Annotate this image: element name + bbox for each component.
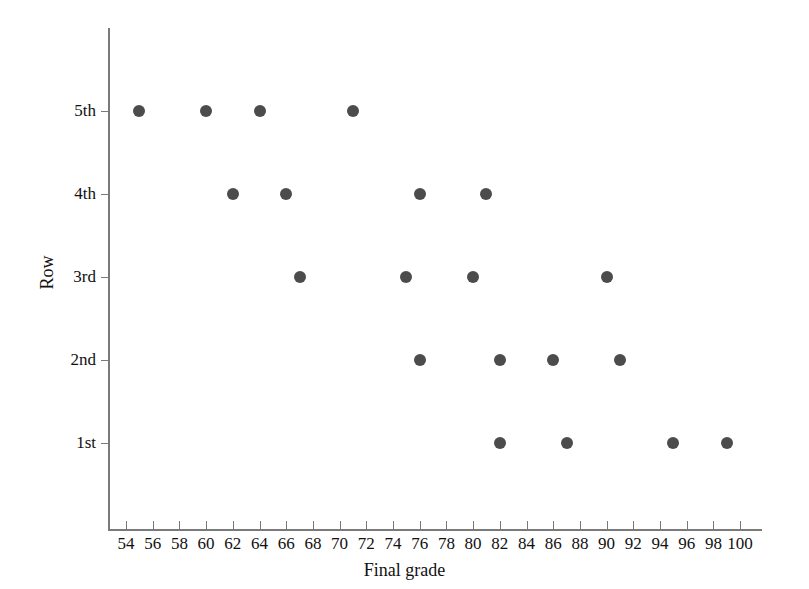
y-axis-line — [108, 28, 110, 530]
data-point — [414, 354, 426, 366]
data-point — [721, 437, 733, 449]
x-tick-100 — [740, 521, 741, 530]
x-tick-94 — [660, 521, 661, 530]
x-tick-label-92: 92 — [625, 534, 642, 553]
data-point — [200, 105, 212, 117]
x-tick-54 — [126, 521, 127, 530]
data-point — [494, 354, 506, 366]
x-tick-56 — [153, 521, 154, 530]
x-tick-label-56: 56 — [144, 534, 161, 553]
x-tick-label-90: 90 — [598, 534, 615, 553]
x-tick-74 — [393, 521, 394, 530]
x-tick-label-74: 74 — [385, 534, 402, 553]
x-tick-label-64: 64 — [251, 534, 268, 553]
x-tick-96 — [687, 521, 688, 530]
data-point — [467, 271, 479, 283]
x-tick-label-88: 88 — [571, 534, 588, 553]
data-point — [133, 105, 145, 117]
y-tick-label-2nd: 2nd — [34, 351, 96, 368]
y-tick-label-text: 1st — [36, 434, 96, 451]
data-point — [667, 437, 679, 449]
data-point — [414, 188, 426, 200]
x-tick-label-76: 76 — [411, 534, 428, 553]
data-point — [547, 354, 559, 366]
chart-canvas: 1st2nd3rd4th5th 545658606264666870727476… — [0, 0, 809, 589]
y-tick-label-5th: 5th — [34, 102, 96, 119]
x-tick-label-58: 58 — [171, 534, 188, 553]
y-tick-3rd — [101, 277, 110, 278]
x-tick-label-68: 68 — [304, 534, 321, 553]
x-tick-label-96: 96 — [678, 534, 695, 553]
data-point — [561, 437, 573, 449]
x-tick-82 — [500, 521, 501, 530]
x-tick-label-100: 100 — [727, 534, 753, 553]
x-tick-label-98: 98 — [705, 534, 722, 553]
x-tick-92 — [633, 521, 634, 530]
y-tick-2nd — [101, 360, 110, 361]
y-tick-label-text: 5th — [36, 102, 96, 119]
data-point — [494, 437, 506, 449]
x-tick-78 — [446, 521, 447, 530]
x-tick-label-62: 62 — [224, 534, 241, 553]
y-tick-label-1st: 1st — [34, 434, 96, 451]
y-tick-label-text: 2nd — [36, 351, 96, 368]
x-tick-label-54: 54 — [118, 534, 135, 553]
x-tick-label-84: 84 — [518, 534, 535, 553]
x-tick-62 — [233, 521, 234, 530]
x-tick-98 — [713, 521, 714, 530]
y-tick-label-text: 4th — [36, 185, 96, 202]
x-tick-80 — [473, 521, 474, 530]
x-tick-64 — [260, 521, 261, 530]
data-point — [280, 188, 292, 200]
x-tick-label-78: 78 — [438, 534, 455, 553]
data-point — [614, 354, 626, 366]
data-point — [347, 105, 359, 117]
x-tick-86 — [553, 521, 554, 530]
data-point — [254, 105, 266, 117]
x-tick-76 — [420, 521, 421, 530]
y-tick-4th — [101, 194, 110, 195]
x-tick-68 — [313, 521, 314, 530]
x-tick-60 — [206, 521, 207, 530]
x-tick-label-80: 80 — [465, 534, 482, 553]
x-tick-70 — [340, 521, 341, 530]
data-point — [400, 271, 412, 283]
y-tick-label-4th: 4th — [34, 185, 96, 202]
x-tick-label-70: 70 — [331, 534, 348, 553]
data-point — [601, 271, 613, 283]
x-tick-72 — [366, 521, 367, 530]
x-tick-66 — [286, 521, 287, 530]
data-point — [227, 188, 239, 200]
x-axis-title: Final grade — [0, 560, 809, 581]
x-tick-label-60: 60 — [198, 534, 215, 553]
x-tick-88 — [580, 521, 581, 530]
data-point — [480, 188, 492, 200]
x-tick-58 — [179, 521, 180, 530]
x-tick-label-72: 72 — [358, 534, 375, 553]
x-tick-label-82: 82 — [491, 534, 508, 553]
x-tick-90 — [607, 521, 608, 530]
y-axis-title: Row — [37, 243, 58, 303]
x-tick-label-66: 66 — [278, 534, 295, 553]
y-tick-1st — [101, 443, 110, 444]
x-tick-label-94: 94 — [652, 534, 669, 553]
x-tick-84 — [527, 521, 528, 530]
y-tick-5th — [101, 111, 110, 112]
data-point — [294, 271, 306, 283]
x-tick-label-86: 86 — [545, 534, 562, 553]
